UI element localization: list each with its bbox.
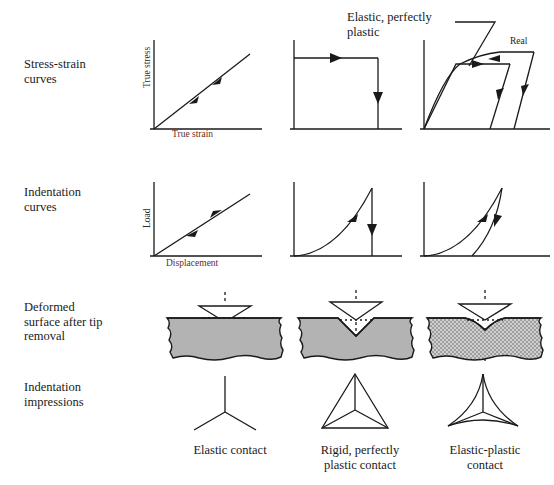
impression-rigid-plastic-drawing [310,372,400,440]
annotation-elastic-perfectly-plastic: Elastic, perfectly plastic [347,10,467,39]
concave-edge-right [483,374,518,426]
direction-arrows [330,53,383,104]
column-caption-elastic-plastic-contact: Elastic-plastic contact [420,443,550,473]
surface-rigid-plastic-drawing [296,288,416,368]
direction-arrows [477,214,502,227]
column-caption-elastic-contact: Elastic contact [160,443,300,458]
direction-arrows [189,77,222,104]
panel-surface-elastic [165,288,285,368]
row-label-indentation-curves: Indentation curves [24,185,134,214]
surface-elastic-plastic-drawing [425,288,545,368]
annotation-real: Real [510,36,527,46]
material-body [167,318,283,360]
row-label-deformed-surface: Deformed surface after tip removal [24,300,142,344]
ideal-load-path [424,64,510,129]
loading-curve [294,188,372,256]
indentation-elastic-plot [146,178,266,268]
indentation-rigid-plastic-plot [286,178,406,268]
surface-elastic-drawing [165,288,285,368]
row-label-indentation-impressions: Indentation impressions [24,380,134,409]
panel-stress-strain-elastic [146,34,266,139]
panel-indentation-rigid-plastic [286,178,406,268]
load-unload-line [154,194,250,256]
radial-line-left [448,412,483,426]
column-caption-rigid-perfectly-plastic-contact: Rigid, perfectly plastic contact [290,443,430,473]
indentation-elastic-plastic-plot [414,178,554,268]
stress-strain-rigid-plastic-plot [286,34,406,139]
stress-strain-y-axis-label: True stress [142,47,152,88]
indentation-y-axis-label: Load [142,208,152,228]
panel-indentation-elastic-plastic [414,178,554,268]
row-label-stress-strain-curves: Stress-strain curves [24,57,134,86]
figure-root: Stress-strain curves Indentation curves … [0,0,554,485]
material-body-hatched [427,318,543,360]
panel-indentation-elastic [146,178,266,268]
impression-elastic-drawing [180,374,270,442]
concave-edge-bottom [448,420,518,426]
indentation-x-axis-label: Displacement [166,258,218,268]
panel-impression-elastic-plastic [438,372,528,440]
impression-elastic-plastic-drawing [438,372,528,440]
radial-line-right [483,412,518,426]
panel-impression-rigid-plastic [310,372,400,440]
radial-line-left [194,412,225,430]
stress-strain-elastic-plot [146,34,266,139]
ideal-unload-path [490,64,510,129]
loading-line [154,54,250,129]
panel-stress-strain-rigid-plastic [286,34,406,139]
radial-line-right [225,412,256,430]
panel-impression-elastic [180,374,270,442]
loading-curve [424,188,502,256]
panel-surface-elastic-plastic [425,288,545,368]
panel-surface-rigid-plastic [296,288,416,368]
concave-edge-left [448,374,483,426]
stress-strain-x-axis-label: True strain [172,129,213,139]
